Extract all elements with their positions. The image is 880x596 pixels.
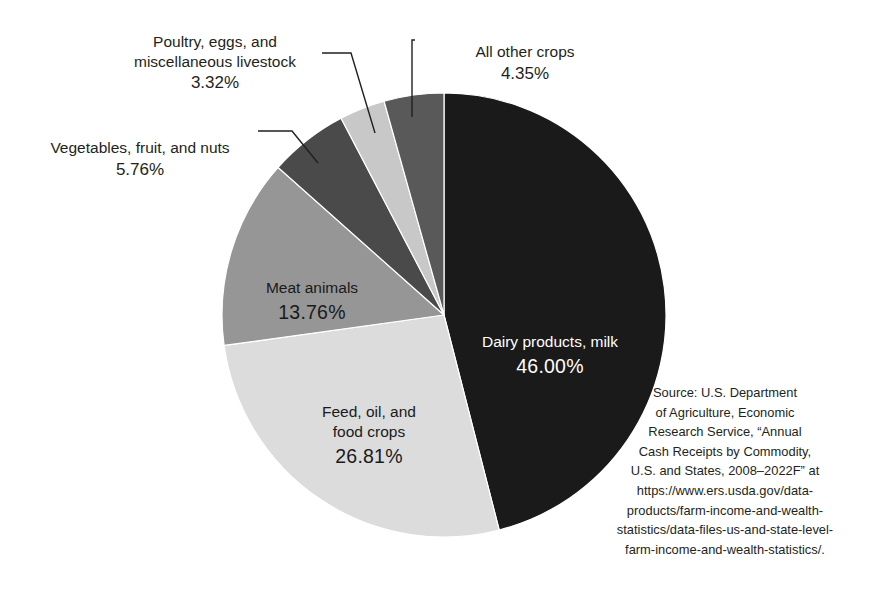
callout-label-all-other-crops-percent: 4.35%: [440, 63, 610, 85]
slice-label-meat-animals-text: Meat animals: [266, 279, 358, 296]
callout-label-poultry-percent: 3.32%: [108, 72, 322, 94]
callout-label-all-other-crops: All other crops 4.35%: [440, 22, 610, 104]
slice-label-dairy-text: Dairy products, milk: [482, 333, 618, 350]
callout-label-vegetables-percent: 5.76%: [26, 159, 254, 181]
callout-label-vegetables-text: Vegetables, fruit, and nuts: [50, 139, 229, 156]
slice-label-feed-oil-food-crops: Feed, oil, and food crops 26.81%: [288, 382, 450, 490]
callout-label-all-other-crops-text: All other crops: [475, 43, 574, 60]
callout-label-vegetables: Vegetables, fruit, and nuts 5.76%: [26, 118, 254, 200]
slice-label-meat-animals: Meat animals 13.76%: [232, 258, 392, 346]
slice-label-dairy-percent: 46.00%: [455, 354, 645, 379]
source-note: Source: U.S. Department of Agriculture, …: [572, 383, 878, 559]
chart-canvas: Poultry, eggs, and miscellaneous livesto…: [0, 0, 880, 596]
callout-label-poultry-text: Poultry, eggs, and miscellaneous livesto…: [134, 33, 296, 70]
callout-label-poultry: Poultry, eggs, and miscellaneous livesto…: [108, 12, 322, 114]
slice-label-feed-text: Feed, oil, and food crops: [322, 403, 416, 440]
slice-label-meat-animals-percent: 13.76%: [232, 300, 392, 325]
slice-label-feed-percent: 26.81%: [288, 444, 450, 469]
